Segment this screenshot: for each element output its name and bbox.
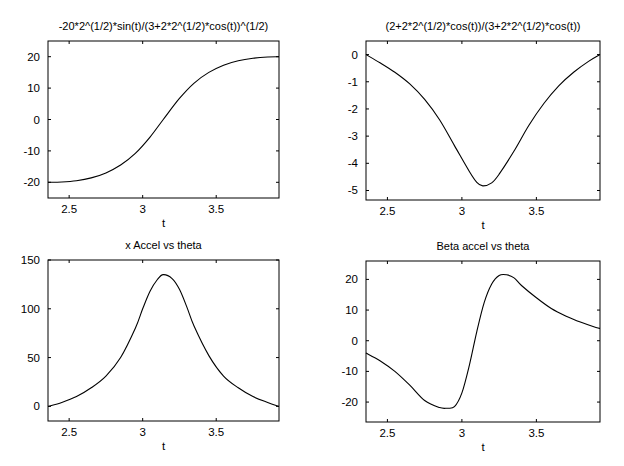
x-tick-label: 2.5 <box>61 203 77 215</box>
x-tick-label: 3.5 <box>208 203 224 215</box>
subplot-title: -20*2^(1/2)*sin(t)/(3+2*2^(1/2)*cos(t))^… <box>59 20 269 32</box>
subplot-bl <box>48 260 279 421</box>
x-tick-label: 2.5 <box>379 205 395 217</box>
y-tick-label: 0 <box>352 49 358 61</box>
plot-canvas <box>0 0 624 466</box>
y-tick-label: 20 <box>27 51 40 63</box>
y-tick-label: -4 <box>348 157 358 169</box>
y-tick-label: -10 <box>341 365 358 377</box>
y-tick-label: -2 <box>348 103 358 115</box>
y-tick-label: 20 <box>345 273 358 285</box>
y-tick-label: 0 <box>352 335 358 347</box>
x-axis-label: t <box>162 440 165 452</box>
subplot-title: x Accel vs theta <box>125 239 201 251</box>
data-line <box>366 55 600 186</box>
y-tick-label: 10 <box>27 82 40 94</box>
y-tick-label: 100 <box>21 303 40 315</box>
x-tick-label: 3 <box>459 205 465 217</box>
subplot-title: Beta accel vs theta <box>437 240 530 252</box>
y-tick-label: 50 <box>27 352 40 364</box>
data-line <box>48 275 279 407</box>
y-tick-label: -20 <box>23 176 40 188</box>
axes-box <box>366 261 600 422</box>
x-tick-label: 2.5 <box>61 426 77 438</box>
data-line <box>366 274 600 408</box>
axes-box <box>366 41 600 200</box>
subplot-tr <box>366 41 600 200</box>
subplot-title: (2+2*2^(1/2)*cos(t))/(3+2*2^(1/2)*cos(t)… <box>386 20 581 32</box>
subplot-br <box>366 261 600 422</box>
x-tick-label: 3.5 <box>528 205 544 217</box>
y-tick-label: -3 <box>348 130 358 142</box>
x-tick-label: 3 <box>139 426 145 438</box>
axes-box <box>48 260 279 421</box>
x-tick-label: 3.5 <box>528 427 544 439</box>
x-tick-label: 2.5 <box>379 427 395 439</box>
data-line <box>48 57 279 183</box>
y-tick-label: 0 <box>34 114 40 126</box>
y-tick-label: 10 <box>345 304 358 316</box>
subplot-tl <box>48 41 279 198</box>
y-tick-label: 0 <box>34 400 40 412</box>
y-tick-label: -5 <box>348 184 358 196</box>
y-tick-label: -10 <box>23 145 40 157</box>
y-tick-label: -20 <box>341 396 358 408</box>
x-tick-label: 3.5 <box>208 426 224 438</box>
x-axis-label: t <box>162 217 165 229</box>
x-axis-label: t <box>481 441 484 453</box>
x-axis-label: t <box>481 219 484 231</box>
y-tick-label: 150 <box>21 254 40 266</box>
y-tick-label: -1 <box>348 76 358 88</box>
x-tick-label: 3 <box>139 203 145 215</box>
x-tick-label: 3 <box>459 427 465 439</box>
